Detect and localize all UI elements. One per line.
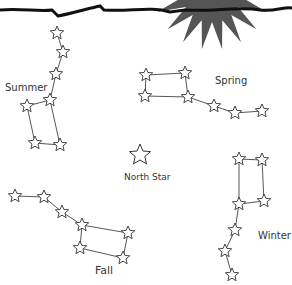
sun-icon <box>154 0 270 49</box>
star-icon <box>8 189 21 202</box>
star-icon <box>255 104 268 117</box>
star-icon <box>207 99 220 112</box>
label-summer: Summer <box>5 82 47 93</box>
star-icon <box>232 197 245 210</box>
star-icon <box>228 223 241 236</box>
star-icon <box>50 26 63 39</box>
star-icon <box>218 244 231 257</box>
label-fall: Fall <box>95 264 113 277</box>
star-icon <box>73 241 86 254</box>
label-winter: Winter <box>258 230 291 241</box>
star-icon <box>56 45 69 58</box>
star-icon <box>116 251 129 264</box>
constellation-canvas <box>0 0 292 285</box>
star-icon <box>121 226 134 239</box>
star-icon <box>257 194 270 207</box>
star-icon <box>181 90 194 103</box>
north-star-icon <box>130 144 151 164</box>
star-icon <box>43 93 56 106</box>
star-icon <box>55 205 68 218</box>
star-icon <box>53 138 66 151</box>
constellation-stars <box>8 26 270 281</box>
star-icon <box>20 99 33 112</box>
label-spring: Spring <box>215 75 247 86</box>
star-icon <box>178 66 191 79</box>
star-icon <box>28 136 41 149</box>
constellation-diagram: Summer Spring North Star Fall Winter <box>0 0 292 285</box>
star-icon <box>228 106 241 119</box>
star-icon <box>225 268 238 281</box>
star-icon <box>138 89 151 102</box>
label-north-star: North Star <box>124 172 171 182</box>
star-icon <box>49 67 62 80</box>
horizon-line <box>0 6 292 16</box>
